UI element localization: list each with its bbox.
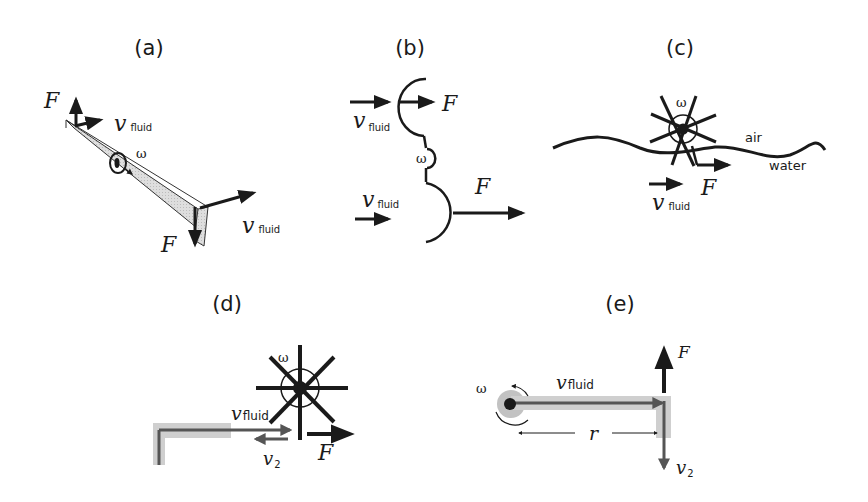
label-omega: ω — [136, 146, 147, 161]
wing — [66, 120, 208, 246]
velocity-arrow-top — [75, 120, 100, 126]
panel-b-label: (b) — [395, 36, 425, 60]
label-velocity-fluid: vfluid — [556, 371, 594, 393]
label-velocity: vfluid — [652, 190, 690, 215]
label-force: F — [677, 342, 691, 362]
panel-d: (d) ω vfluid v2 F — [153, 292, 350, 470]
label-velocity-top: vfluid — [353, 108, 390, 133]
label-omega: ω — [416, 151, 427, 166]
label-force: F — [317, 440, 334, 465]
panel-d-label: (d) — [212, 292, 242, 316]
label-force: F — [700, 175, 717, 200]
panel-b: (b) vfluid F ω vfluid F — [350, 36, 522, 242]
label-force-top: F — [43, 88, 60, 113]
label-radius: r — [589, 422, 600, 444]
label-velocity-2: v2 — [676, 457, 694, 479]
label-water: water — [769, 158, 807, 173]
label-velocity-fluid: vfluid — [231, 402, 269, 424]
label-velocity-bottom: vfluid — [362, 187, 399, 212]
panel-c-label: (c) — [666, 36, 694, 60]
label-omega: ω — [476, 381, 487, 396]
label-velocity-bottom: vfluid — [242, 213, 280, 238]
label-force-top: F — [441, 91, 458, 116]
panel-a-label: (a) — [134, 36, 163, 60]
paddle-wheel-icon — [256, 345, 348, 440]
panel-c: (c) ω air water vfluid F — [553, 36, 825, 215]
label-omega: ω — [676, 95, 687, 110]
panel-a: (a) F vfluid ω vfluid F — [43, 36, 280, 257]
label-velocity-top: vfluid — [114, 111, 152, 136]
label-force-bottom: F — [160, 232, 177, 257]
label-air: air — [745, 130, 763, 145]
panel-e-label: (e) — [605, 292, 634, 316]
label-force-bottom: F — [474, 174, 491, 199]
panel-e: (e) ω vfluid F r v2 — [476, 292, 694, 479]
velocity-arrow-bottom — [200, 193, 253, 208]
figure: (a) F vfluid ω vfluid F (b) — [0, 0, 868, 502]
label-omega: ω — [278, 350, 289, 365]
label-velocity-2: v2 — [263, 448, 281, 470]
sprinkler-arm — [497, 390, 671, 468]
